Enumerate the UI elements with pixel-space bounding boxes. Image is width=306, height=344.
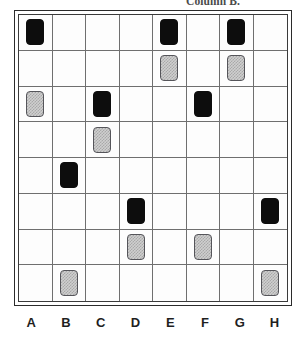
gray-token-D7[interactable] bbox=[127, 234, 145, 260]
board-inner-frame bbox=[18, 14, 288, 302]
column-label-B: B bbox=[49, 315, 84, 330]
board-cell-C6[interactable] bbox=[86, 194, 120, 230]
board-cell-G6[interactable] bbox=[220, 194, 254, 230]
board-cell-D8[interactable] bbox=[120, 265, 154, 301]
column-label-H: H bbox=[257, 315, 292, 330]
board-cell-A3[interactable] bbox=[19, 87, 53, 123]
board-cell-E6[interactable] bbox=[153, 194, 187, 230]
black-token-C3[interactable] bbox=[93, 91, 111, 117]
board-cell-A1[interactable] bbox=[19, 15, 53, 51]
gray-token-E2[interactable] bbox=[160, 55, 178, 81]
column-label-row: ABCDEFGH bbox=[14, 310, 292, 334]
black-token-B5[interactable] bbox=[60, 162, 78, 188]
board-cell-F7[interactable] bbox=[187, 230, 221, 266]
board-cell-F3[interactable] bbox=[187, 87, 221, 123]
board-cell-B5[interactable] bbox=[53, 158, 87, 194]
board-cell-D1[interactable] bbox=[120, 15, 154, 51]
column-label-C: C bbox=[84, 315, 119, 330]
black-token-E1[interactable] bbox=[160, 19, 178, 45]
board-cell-C3[interactable] bbox=[86, 87, 120, 123]
board-cell-C5[interactable] bbox=[86, 158, 120, 194]
gray-token-F7[interactable] bbox=[194, 234, 212, 260]
gray-token-B8[interactable] bbox=[60, 270, 78, 296]
board-cell-C1[interactable] bbox=[86, 15, 120, 51]
board-cell-D2[interactable] bbox=[120, 51, 154, 87]
board-cell-G5[interactable] bbox=[220, 158, 254, 194]
board-cell-C8[interactable] bbox=[86, 265, 120, 301]
board-cell-F4[interactable] bbox=[187, 122, 221, 158]
board-cell-E2[interactable] bbox=[153, 51, 187, 87]
black-token-H6[interactable] bbox=[261, 198, 279, 224]
board-cell-D3[interactable] bbox=[120, 87, 154, 123]
black-token-G1[interactable] bbox=[227, 19, 245, 45]
board-cell-F1[interactable] bbox=[187, 15, 221, 51]
board-cell-A6[interactable] bbox=[19, 194, 53, 230]
gray-token-G2[interactable] bbox=[227, 55, 245, 81]
column-label-A: A bbox=[14, 315, 49, 330]
black-token-A1[interactable] bbox=[26, 19, 44, 45]
board-cell-F5[interactable] bbox=[187, 158, 221, 194]
board-grid bbox=[19, 15, 287, 301]
board-cell-H4[interactable] bbox=[254, 122, 288, 158]
board-cell-H1[interactable] bbox=[254, 15, 288, 51]
board-cell-C4[interactable] bbox=[86, 122, 120, 158]
board-cell-A4[interactable] bbox=[19, 122, 53, 158]
board-cell-G8[interactable] bbox=[220, 265, 254, 301]
caption-strip: Column B. bbox=[0, 0, 306, 9]
board-cell-G3[interactable] bbox=[220, 87, 254, 123]
board-cell-E3[interactable] bbox=[153, 87, 187, 123]
gray-token-A3[interactable] bbox=[26, 91, 44, 117]
board-cell-F2[interactable] bbox=[187, 51, 221, 87]
column-label-E: E bbox=[153, 315, 188, 330]
board-cell-B1[interactable] bbox=[53, 15, 87, 51]
board-cell-H2[interactable] bbox=[254, 51, 288, 87]
board-frame bbox=[14, 10, 292, 306]
board-cell-B3[interactable] bbox=[53, 87, 87, 123]
black-token-F3[interactable] bbox=[194, 91, 212, 117]
board-cell-E8[interactable] bbox=[153, 265, 187, 301]
board-cell-H8[interactable] bbox=[254, 265, 288, 301]
board-cell-G7[interactable] bbox=[220, 230, 254, 266]
board-cell-F6[interactable] bbox=[187, 194, 221, 230]
board-cell-B7[interactable] bbox=[53, 230, 87, 266]
board-cell-G2[interactable] bbox=[220, 51, 254, 87]
board-cell-H7[interactable] bbox=[254, 230, 288, 266]
board-cell-E7[interactable] bbox=[153, 230, 187, 266]
black-token-D6[interactable] bbox=[127, 198, 145, 224]
board-cell-B2[interactable] bbox=[53, 51, 87, 87]
gray-token-C4[interactable] bbox=[93, 127, 111, 153]
board-cell-H3[interactable] bbox=[254, 87, 288, 123]
board-cell-A8[interactable] bbox=[19, 265, 53, 301]
board-cell-D6[interactable] bbox=[120, 194, 154, 230]
board-cell-D7[interactable] bbox=[120, 230, 154, 266]
board-cell-H6[interactable] bbox=[254, 194, 288, 230]
board-cell-B8[interactable] bbox=[53, 265, 87, 301]
board-cell-A7[interactable] bbox=[19, 230, 53, 266]
board-cell-B6[interactable] bbox=[53, 194, 87, 230]
board-cell-C7[interactable] bbox=[86, 230, 120, 266]
caption-label: Column B. bbox=[186, 0, 240, 7]
board-cell-D4[interactable] bbox=[120, 122, 154, 158]
board-cell-A5[interactable] bbox=[19, 158, 53, 194]
board-cell-E5[interactable] bbox=[153, 158, 187, 194]
column-label-D: D bbox=[118, 315, 153, 330]
column-label-F: F bbox=[188, 315, 223, 330]
board-cell-C2[interactable] bbox=[86, 51, 120, 87]
board-cell-H5[interactable] bbox=[254, 158, 288, 194]
board-cell-E1[interactable] bbox=[153, 15, 187, 51]
board-cell-G1[interactable] bbox=[220, 15, 254, 51]
board-cell-A2[interactable] bbox=[19, 51, 53, 87]
board-cell-F8[interactable] bbox=[187, 265, 221, 301]
column-label-G: G bbox=[223, 315, 258, 330]
board-cell-B4[interactable] bbox=[53, 122, 87, 158]
board-cell-E4[interactable] bbox=[153, 122, 187, 158]
board-cell-G4[interactable] bbox=[220, 122, 254, 158]
gray-token-H8[interactable] bbox=[261, 270, 279, 296]
board-cell-D5[interactable] bbox=[120, 158, 154, 194]
